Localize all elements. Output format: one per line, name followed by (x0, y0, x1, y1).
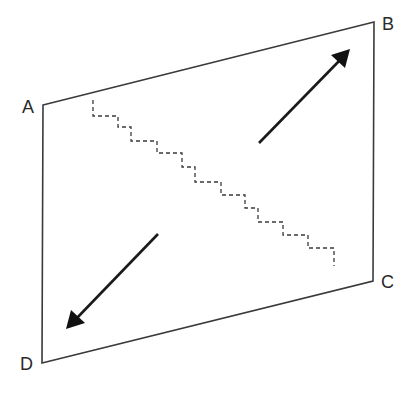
corner-label-b: B (382, 14, 394, 34)
arrow-shaft (259, 58, 342, 143)
parallelogram-outline (42, 22, 374, 363)
arrow-toward-d (66, 234, 158, 329)
corner-label-c: C (381, 272, 394, 292)
corner-label-a: A (22, 97, 34, 117)
arrow-toward-b (259, 49, 350, 143)
corner-label-d: D (20, 354, 33, 374)
arrow-shaft (75, 234, 158, 320)
parallelogram-diagram: A B C D (0, 0, 419, 393)
stair-step-dashed-path (93, 100, 334, 266)
